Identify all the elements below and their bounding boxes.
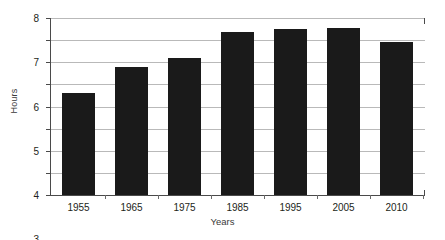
x-axis-tick-label: 1965 (120, 202, 142, 213)
y-axis-title: Hours (9, 71, 19, 131)
y-axis-tick-label: 4 (33, 190, 39, 201)
x-axis-tick (370, 195, 371, 199)
plot-area: 012345678 1955196519751985199520052010 (50, 18, 425, 195)
x-axis-tick (211, 195, 212, 199)
bar (115, 67, 148, 195)
y-axis-tick: 0 (46, 195, 50, 196)
x-axis-tick (423, 195, 424, 199)
x-axis-tick (105, 195, 106, 199)
y-axis-tick-label: 8 (33, 13, 39, 24)
bar (327, 28, 360, 195)
bar (274, 29, 307, 195)
y-axis-tick-label: 5 (33, 145, 39, 156)
x-axis-tick-label: 2005 (332, 202, 354, 213)
x-axis-tick-label: 1995 (279, 202, 301, 213)
y-axis-tick-label: 3 (33, 234, 39, 240)
x-axis-tick (264, 195, 265, 199)
bar (62, 93, 95, 195)
x-axis-tick (158, 195, 159, 199)
bar (168, 58, 201, 195)
bar (380, 42, 413, 195)
bar (221, 32, 254, 195)
x-axis-line (50, 195, 425, 196)
bar-chart: Hours 012345678 195519651975198519952005… (0, 0, 445, 240)
y-axis-tick-label: 6 (33, 101, 39, 112)
x-axis-tick (317, 195, 318, 199)
y-axis-tick-label: 7 (33, 57, 39, 68)
x-axis-tick-label: 1985 (226, 202, 248, 213)
x-axis-tick-label: 1955 (67, 202, 89, 213)
x-axis-title: Years (0, 216, 445, 227)
x-axis-tick-label: 2010 (385, 202, 407, 213)
x-axis-tick-label: 1975 (173, 202, 195, 213)
bar-series (50, 18, 425, 195)
